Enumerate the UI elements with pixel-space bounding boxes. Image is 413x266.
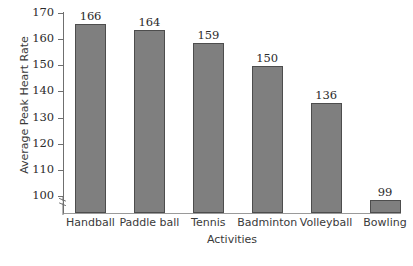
bar-value-label: 150 — [256, 51, 278, 65]
x-axis-line — [63, 213, 401, 214]
y-tick-mark — [58, 118, 63, 119]
y-axis-title: Average Peak Heart Rate — [18, 30, 31, 180]
y-tick-label: 100 — [32, 188, 54, 202]
bar-paddle-ball: 164 — [134, 30, 165, 213]
bar-tennis: 159 — [193, 43, 224, 213]
y-tick-label: 110 — [32, 162, 54, 176]
category-label-paddle-ball: Paddle ball — [119, 216, 179, 229]
y-tick-label: 150 — [32, 57, 54, 71]
y-tick-mark — [58, 13, 63, 14]
y-tick-label: 160 — [32, 31, 54, 45]
y-axis-break-icon — [56, 197, 70, 215]
y-tick-mark — [58, 196, 63, 197]
y-tick-mark — [58, 91, 63, 92]
category-label-volleyball: Volleyball — [300, 216, 353, 229]
bar-value-label: 159 — [197, 28, 219, 42]
bar-bowling: 99 — [370, 200, 401, 213]
y-tick-label: 170 — [32, 5, 54, 19]
category-label-handball: Handball — [66, 216, 115, 229]
y-tick-label: 120 — [32, 136, 54, 150]
y-tick-mark — [58, 144, 63, 145]
bar-badminton: 150 — [252, 66, 283, 213]
y-tick-mark — [58, 39, 63, 40]
bar-value-label: 99 — [378, 185, 392, 199]
y-tick-label: 130 — [32, 110, 54, 124]
y-tick-label: 140 — [32, 83, 54, 97]
bar-chart: 100110120130140150160170 166164159150136… — [0, 0, 413, 266]
bar-value-label: 164 — [139, 15, 161, 29]
y-tick-mark — [58, 170, 63, 171]
bar-value-label: 166 — [80, 9, 102, 23]
bar-handball: 166 — [75, 24, 106, 213]
y-axis-line — [63, 12, 64, 214]
category-label-badminton: Badminton — [237, 216, 297, 229]
x-axis-title: Activities — [207, 233, 257, 246]
category-label-bowling: Bowling — [363, 216, 406, 229]
category-label-tennis: Tennis — [191, 216, 225, 229]
y-tick-mark — [58, 65, 63, 66]
bar-volleyball: 136 — [311, 103, 342, 213]
bar-value-label: 136 — [315, 88, 337, 102]
